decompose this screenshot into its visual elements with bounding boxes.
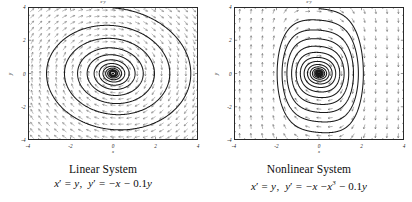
xtick-label: 2 <box>360 143 363 149</box>
eq-comma: , <box>79 177 83 189</box>
plot-title-linear: x-y <box>0 0 206 5</box>
xtick-label: -2 <box>274 143 278 149</box>
xtick-label: -2 <box>68 143 72 149</box>
ytick-label: -2 <box>21 104 25 110</box>
eq-equals-2: = <box>98 177 105 189</box>
eq-minus-3: − <box>338 180 345 192</box>
ytick-label: 0 <box>23 71 26 77</box>
phase-plot-linear <box>28 7 198 140</box>
caption-title-linear: Linear System <box>0 163 206 176</box>
eq-exponent: 3 <box>332 179 336 187</box>
ytick-label: 4 <box>23 4 26 10</box>
axis-label-y-nonlinear: y <box>213 72 219 74</box>
eq-coefficient: 0.1 <box>348 180 362 192</box>
xtick-label: -4 <box>232 143 236 149</box>
eq-equals: = <box>261 180 268 192</box>
eq-prime: ′ <box>59 177 61 189</box>
eq-term-x: x <box>116 177 121 189</box>
eq-equals-2: = <box>295 180 302 192</box>
eq-term-x: x <box>312 180 317 192</box>
eq-prime-2: ′ <box>290 180 292 192</box>
eq-term-y: y <box>362 180 367 192</box>
caption-equation-linear: x′ = y, y′ = −x − 0.1y <box>0 176 206 190</box>
axis-label-y-linear: y <box>7 72 13 74</box>
panel-linear-system: x-y 4 2 0 <box>0 0 206 202</box>
axis-label-x-nonlinear: x <box>318 149 320 154</box>
caption-equation-nonlinear: x′ = y, y′ = −x −x3 − 0.1y <box>206 176 412 193</box>
plot-area-nonlinear: 4 2 0 -2 -4 -4 -2 0 2 4 y x <box>234 7 404 140</box>
eq-prime-2: ′ <box>93 177 95 189</box>
ytick-label: 2 <box>23 37 26 43</box>
plot-area-linear: 4 2 0 -2 -4 -4 -2 0 2 4 y x <box>28 7 198 140</box>
ytick-label: 2 <box>229 37 232 43</box>
eq-comma: , <box>276 180 280 192</box>
eq-equals: = <box>64 177 71 189</box>
ytick-label: -2 <box>227 104 231 110</box>
fixed-point-nonlinear <box>318 72 320 74</box>
phase-plot-nonlinear <box>234 7 404 140</box>
caption-title-nonlinear: Nonlinear System <box>206 163 412 176</box>
xtick-label: 4 <box>197 143 200 149</box>
xtick-label: 2 <box>154 143 157 149</box>
phase-portrait-figure: x-y 4 2 0 <box>0 0 412 202</box>
eq-coefficient: 0.1 <box>133 177 147 189</box>
eq-minus-2: − <box>123 177 130 189</box>
trajectory-spiral-nonlinear <box>277 9 363 133</box>
ytick-label: 4 <box>229 4 232 10</box>
xtick-label: 4 <box>403 143 406 149</box>
axis-label-x-linear: x <box>112 149 114 154</box>
eq-minus: − <box>108 177 115 189</box>
fixed-point-linear <box>112 72 114 74</box>
caption-nonlinear: Nonlinear System x′ = y, y′ = −x −x3 − 0… <box>206 163 412 193</box>
xtick-label: -4 <box>26 143 30 149</box>
caption-linear: Linear System x′ = y, y′ = −x − 0.1y <box>0 163 206 190</box>
eq-term-y: y <box>147 177 152 189</box>
ytick-label: 0 <box>229 71 232 77</box>
eq-prime: ′ <box>256 180 258 192</box>
panel-nonlinear-system: x-y 4 2 0 -2 -4 -4 -2 0 2 <box>206 0 412 202</box>
plot-title-nonlinear: x-y <box>206 0 412 5</box>
